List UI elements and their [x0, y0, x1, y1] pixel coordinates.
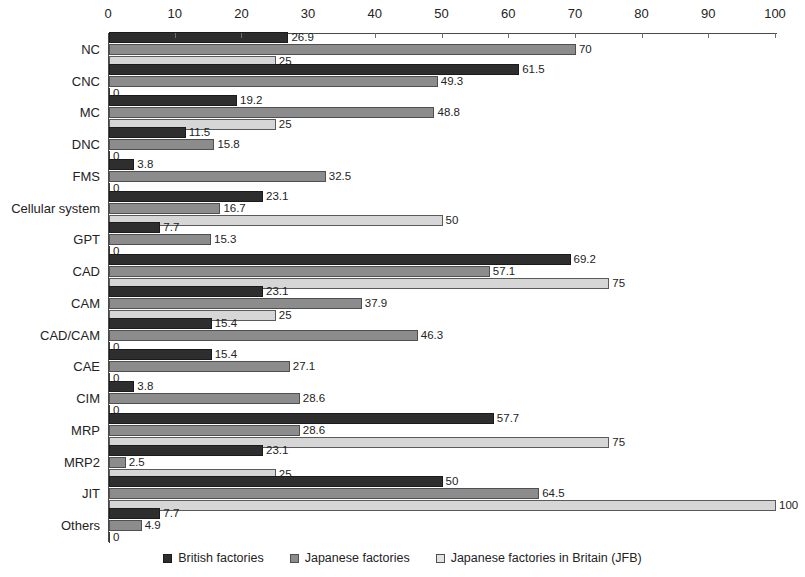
bar-value-label: 23.1 [263, 444, 288, 456]
category-label: MRP2 [0, 455, 100, 470]
category-label: CAM [0, 296, 100, 311]
category-label: GPT [0, 232, 100, 247]
bar [109, 107, 434, 118]
bar-value-label: 3.8 [134, 158, 153, 170]
bar-value-label: 37.9 [362, 297, 387, 309]
bar-value-label: 46.3 [418, 329, 443, 341]
bar [109, 203, 220, 214]
bar [109, 139, 214, 150]
chart-group: MC19.248.825 [0, 98, 805, 130]
category-label: CAD/CAM [0, 328, 100, 343]
category-label: CIM [0, 391, 100, 406]
bar [109, 349, 212, 360]
bar-chart: 0102030405060708090100 NC26.97025CNC61.5… [0, 0, 805, 577]
bar-value-label: 69.2 [571, 253, 596, 265]
x-axis-tick-label: 100 [764, 6, 786, 21]
category-label: Others [0, 518, 100, 533]
plot-area: NC26.97025CNC61.549.30MC19.248.825DNC11.… [0, 34, 805, 542]
x-axis-tick-mark [775, 33, 776, 38]
bar-value-label: 15.8 [214, 138, 239, 150]
x-axis-tick-mark [308, 33, 309, 38]
chart-group: MRP223.12.525 [0, 447, 805, 479]
legend-swatch-british [163, 554, 172, 563]
bar-value-label: 57.7 [494, 412, 519, 424]
bar [109, 508, 160, 519]
bar-value-label: 49.3 [438, 75, 463, 87]
bar-value-label: 48.8 [434, 106, 459, 118]
legend-item: Japanese factories in Britain (JFB) [436, 551, 642, 565]
bar-value-label: 23.1 [263, 285, 288, 297]
x-axis-tick-label: 90 [701, 6, 715, 21]
chart-group: Cellular system23.116.750 [0, 193, 805, 225]
category-label: FMS [0, 169, 100, 184]
bar-value-label: 32.5 [326, 170, 351, 182]
bar-value-label: 61.5 [519, 63, 544, 75]
chart-group: MRP57.728.675 [0, 415, 805, 447]
x-axis-tick-label: 30 [301, 6, 315, 21]
chart-legend: British factoriesJapanese factoriesJapan… [0, 551, 805, 565]
bar [109, 159, 134, 170]
chart-group: CAE15.427.10 [0, 352, 805, 384]
bar [109, 381, 134, 392]
bar [109, 361, 290, 372]
x-axis-tick-mark [442, 33, 443, 38]
chart-group: CNC61.549.30 [0, 66, 805, 98]
bar [109, 298, 362, 309]
bar-value-label: 15.4 [212, 348, 237, 360]
bar [109, 488, 539, 499]
bar-value-label: 3.8 [134, 380, 153, 392]
x-axis-tick-mark [708, 33, 709, 38]
bar [109, 64, 519, 75]
bar-value-label: 50 [443, 475, 459, 487]
chart-group: CIM3.828.60 [0, 383, 805, 415]
x-axis-tick-label: 50 [434, 6, 448, 21]
category-label: JIT [0, 486, 100, 501]
x-axis-tick-mark [241, 33, 242, 38]
x-axis-tick-label: 80 [634, 6, 648, 21]
chart-group: CAD/CAM15.446.30 [0, 320, 805, 352]
category-label: Cellular system [0, 201, 100, 216]
bar-value-label: 70 [576, 43, 592, 55]
x-axis-tick-label: 60 [501, 6, 515, 21]
bar [109, 191, 263, 202]
category-label: MC [0, 105, 100, 120]
bar [109, 44, 576, 55]
x-axis-tick-label: 10 [167, 6, 181, 21]
chart-group: Others7.74.90 [0, 510, 805, 542]
chart-group: DNC11.515.80 [0, 129, 805, 161]
bar [109, 127, 186, 138]
bar-value-label: 57.1 [490, 265, 515, 277]
bar [109, 32, 288, 43]
bar-value-label: 19.2 [237, 94, 262, 106]
category-label: CAD [0, 264, 100, 279]
x-axis-tick-label: 20 [234, 6, 248, 21]
category-label: MRP [0, 423, 100, 438]
legend-item: Japanese factories [290, 551, 410, 565]
bar-value-label: 28.6 [300, 424, 325, 436]
bar [109, 254, 571, 265]
x-axis-tick-mark [575, 33, 576, 38]
bar [109, 234, 211, 245]
category-label: CNC [0, 74, 100, 89]
x-axis-tick-mark [375, 33, 376, 38]
chart-group: CAM23.137.925 [0, 288, 805, 320]
chart-group: NC26.97025 [0, 34, 805, 66]
legend-item: British factories [163, 551, 263, 565]
bar-value-label: 2.5 [126, 456, 145, 468]
legend-swatch-jfb [436, 554, 445, 563]
bar [109, 95, 237, 106]
bar-value-label: 15.4 [212, 317, 237, 329]
category-label: DNC [0, 137, 100, 152]
category-label: NC [0, 42, 100, 57]
bar [109, 413, 494, 424]
bar [109, 445, 263, 456]
category-label: CAE [0, 359, 100, 374]
bar-value-label: 64.5 [539, 487, 564, 499]
bar [109, 266, 490, 277]
bar-value-label: 26.9 [288, 31, 313, 43]
x-axis-tick-mark [508, 33, 509, 38]
bar-value-label: 15.3 [211, 233, 236, 245]
x-axis-tick-mark [175, 33, 176, 38]
bar-value-label: 16.7 [220, 202, 245, 214]
bar [109, 476, 443, 487]
